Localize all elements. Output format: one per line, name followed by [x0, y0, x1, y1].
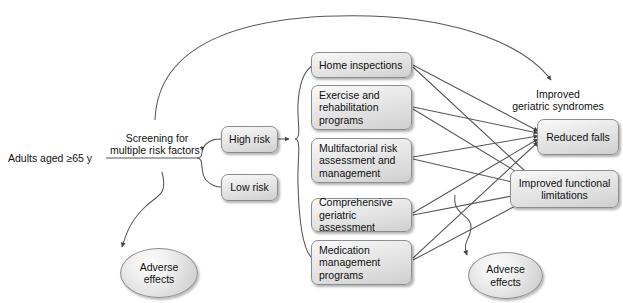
- intervention-box-comprehensive-geriatric-assessment[interactable]: Comprehensive geriatric assessment: [311, 198, 412, 232]
- outcome-box-improved-functional-limitations[interactable]: Improved functional limitations: [510, 170, 619, 208]
- intervention-box-home-inspections[interactable]: Home inspections: [311, 52, 412, 78]
- harm-ellipse-adverse-effects-right-label: Adverse effects: [486, 263, 525, 287]
- edge-screening-to-adverse-left: [122, 172, 164, 247]
- outcomes-heading-label: Improved geriatric syndromes: [497, 88, 619, 113]
- population-label: Adults aged ≥65 y: [8, 152, 92, 164]
- analytic-framework-diagram: Adults aged ≥65 y Screening for multiple…: [0, 0, 623, 303]
- intervention-box-medication-management-label: Medication management programs: [319, 244, 380, 281]
- harm-ellipse-adverse-effects-right[interactable]: Adverse effects: [468, 252, 543, 299]
- intervention-box-multifactorial-risk-label: Multifactorial risk assessment and manag…: [319, 142, 397, 179]
- intervention-box-multifactorial-risk[interactable]: Multifactorial risk assessment and manag…: [311, 138, 412, 183]
- risk-box-high-risk-label: High risk: [229, 133, 270, 145]
- risk-box-high-risk[interactable]: High risk: [221, 126, 278, 153]
- intervention-box-medication-management[interactable]: Medication management programs: [311, 240, 412, 285]
- outcome-box-improved-functional-limitations-label: Improved functional limitations: [519, 177, 611, 202]
- edge-brace-interventions: [295, 66, 312, 139]
- intervention-box-comprehensive-geriatric-assessment-label: Comprehensive geriatric assessment: [319, 196, 404, 233]
- intervention-box-exercise-rehabilitation-label: Exercise and rehabilitation programs: [319, 89, 380, 126]
- edge-brace-risk-strata-low: [197, 158, 222, 187]
- intervention-box-exercise-rehabilitation[interactable]: Exercise and rehabilitation programs: [311, 85, 412, 130]
- harm-ellipse-adverse-effects-left-label: Adverse effects: [140, 261, 179, 285]
- outcome-box-reduced-falls[interactable]: Reduced falls: [537, 119, 619, 155]
- screening-label: Screening for multiple risk factors*: [101, 132, 213, 157]
- risk-box-low-risk[interactable]: Low risk: [221, 174, 278, 201]
- harm-ellipse-adverse-effects-left[interactable]: Adverse effects: [120, 248, 198, 298]
- edge-home-inspections-to-functional: [413, 67, 538, 183]
- intervention-box-home-inspections-label: Home inspections: [319, 59, 402, 71]
- risk-box-low-risk-label: Low risk: [230, 181, 269, 193]
- outcome-box-reduced-falls-label: Reduced falls: [546, 131, 610, 143]
- edge-brace-interventions-2: [295, 139, 312, 258]
